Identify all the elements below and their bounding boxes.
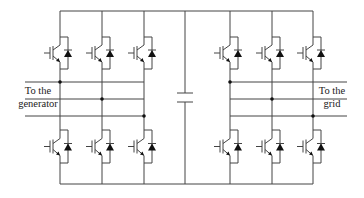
diode-icon xyxy=(234,50,242,57)
diode-icon xyxy=(234,144,242,151)
diode-icon xyxy=(317,50,325,57)
generator-label-line2: generator xyxy=(6,97,70,110)
igbt-collector-diag xyxy=(95,45,102,50)
igbt-collector-diag xyxy=(306,139,313,144)
diode-icon xyxy=(64,144,72,151)
diode-icon xyxy=(148,144,156,151)
igbt-collector-diag xyxy=(53,45,60,50)
junction-dot xyxy=(142,114,146,118)
igbt-collector-diag xyxy=(306,45,313,50)
diode-icon xyxy=(276,50,284,57)
diode-icon xyxy=(64,50,72,57)
grid-label: To the grid xyxy=(312,84,352,110)
igbt-collector-diag xyxy=(223,139,230,144)
grid-label-line1: To the xyxy=(312,84,352,97)
generator-label: To the generator xyxy=(6,84,70,110)
junction-dot xyxy=(311,114,315,118)
grid-label-line2: grid xyxy=(312,97,352,110)
igbt-collector-diag xyxy=(223,45,230,50)
igbt-collector-diag xyxy=(265,45,272,50)
igbt-collector-diag xyxy=(137,45,144,50)
igbt-collector-diag xyxy=(95,139,102,144)
igbt-collector-diag xyxy=(53,139,60,144)
generator-label-line1: To the xyxy=(6,84,70,97)
converter-diagram: To the generator To the grid xyxy=(0,0,364,198)
diode-icon xyxy=(148,50,156,57)
diode-icon xyxy=(106,144,114,151)
junction-dot xyxy=(228,80,232,84)
junction-dot xyxy=(100,97,104,101)
igbt-collector-diag xyxy=(137,139,144,144)
diode-icon xyxy=(317,144,325,151)
junction-dot xyxy=(270,97,274,101)
diode-icon xyxy=(276,144,284,151)
diode-icon xyxy=(106,50,114,57)
igbt-collector-diag xyxy=(265,139,272,144)
